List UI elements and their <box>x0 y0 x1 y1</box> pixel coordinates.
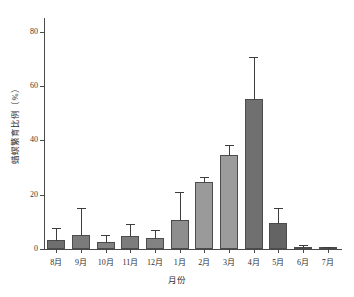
error-bar-stem <box>229 146 230 156</box>
error-bar-cap <box>175 192 184 193</box>
bar <box>47 240 65 249</box>
x-tick-mark <box>56 249 57 253</box>
error-bar-stem <box>180 193 181 221</box>
error-bar-stem <box>81 209 82 236</box>
x-tick-mark <box>328 249 329 253</box>
error-bar-stem <box>278 209 279 224</box>
error-bar-stem <box>155 231 156 239</box>
bar <box>72 235 90 249</box>
error-bar-cap <box>249 57 258 58</box>
bar-chart: 020406080 8月9月10月11月12月1月2月3月4月5月6月7月 蜡螟… <box>0 0 354 297</box>
x-tick-mark <box>81 249 82 253</box>
error-bar-cap <box>126 224 135 225</box>
error-bar-cap <box>323 247 332 248</box>
bars-layer <box>44 18 340 249</box>
error-bar-cap <box>225 145 234 146</box>
y-tick-mark <box>40 249 44 250</box>
x-tick-mark <box>106 249 107 253</box>
bar <box>220 155 238 249</box>
error-bar-cap <box>299 245 308 246</box>
error-bar-cap <box>77 208 86 209</box>
error-bar-stem <box>303 246 304 248</box>
error-bar-stem <box>328 248 329 249</box>
error-bar-stem <box>254 58 255 99</box>
x-tick-label: 7月 <box>311 256 345 267</box>
x-axis-line <box>44 249 342 250</box>
bar <box>195 182 213 249</box>
error-bar-stem <box>204 178 205 183</box>
x-tick-mark <box>303 249 304 253</box>
plot-area <box>44 18 340 249</box>
error-bar-stem <box>106 236 107 243</box>
x-tick-mark <box>204 249 205 253</box>
error-bar-stem <box>56 229 57 241</box>
x-tick-mark <box>130 249 131 253</box>
error-bar-stem <box>130 225 131 237</box>
error-bar-cap <box>274 208 283 209</box>
x-tick-mark <box>180 249 181 253</box>
error-bar-cap <box>151 230 160 231</box>
x-tick-mark <box>278 249 279 253</box>
x-axis-title: 月份 <box>0 273 354 285</box>
error-bar-cap <box>200 177 209 178</box>
error-bar-cap <box>52 228 61 229</box>
bar <box>121 236 139 249</box>
y-tick-label: 80 <box>10 27 38 36</box>
y-tick-label: 0 <box>10 244 38 253</box>
bar <box>171 220 189 249</box>
y-axis-title: 蜡螟繁育比例（%） <box>8 64 20 184</box>
error-bar-cap <box>101 235 110 236</box>
bar <box>146 238 164 249</box>
x-tick-mark <box>229 249 230 253</box>
bar <box>269 223 287 249</box>
y-tick-label: 20 <box>10 190 38 199</box>
x-tick-mark <box>254 249 255 253</box>
bar <box>245 99 263 249</box>
x-tick-mark <box>155 249 156 253</box>
